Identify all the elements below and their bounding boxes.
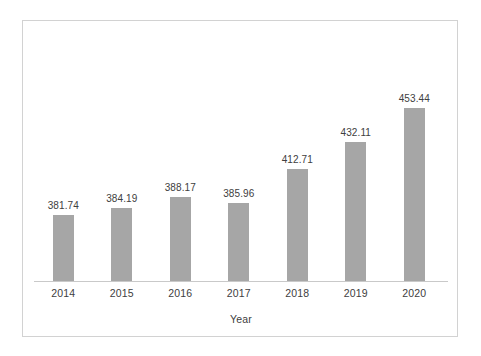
- bar-group: 388.17: [151, 30, 210, 281]
- chart-frame: 381.74 384.19 388.17 385.96 412.71 432.1: [22, 20, 458, 337]
- bar-value-label: 432.11: [341, 127, 371, 138]
- bar-2014[interactable]: [53, 215, 74, 281]
- x-tick-2015: 2015: [93, 287, 152, 299]
- chart-figure: 381.74 384.19 388.17 385.96 412.71 432.1: [0, 0, 481, 356]
- bar-value-label: 384.19: [106, 193, 137, 204]
- x-tick-2019: 2019: [327, 287, 386, 299]
- x-tick-2020: 2020: [385, 287, 444, 299]
- bar-2016[interactable]: [170, 197, 191, 281]
- bar-group: 412.71: [268, 30, 327, 281]
- x-axis-line: [34, 281, 448, 282]
- bar-value-label: 412.71: [282, 154, 313, 165]
- bar-value-label: 453.44: [399, 93, 430, 104]
- bar-value-label: 385.96: [223, 188, 254, 199]
- x-tick-2018: 2018: [268, 287, 327, 299]
- bar-value-label: 388.17: [165, 182, 196, 193]
- plot-area: 381.74 384.19 388.17 385.96 412.71 432.1: [34, 31, 448, 282]
- bar-2015[interactable]: [111, 208, 132, 281]
- bar-2019[interactable]: [345, 142, 366, 281]
- bar-value-label: 381.74: [48, 200, 79, 211]
- bar-2018[interactable]: [287, 169, 308, 281]
- bar-2020[interactable]: [404, 108, 425, 281]
- x-axis-title: Year: [34, 313, 448, 325]
- x-tick-2016: 2016: [151, 287, 210, 299]
- bar-group: 384.19: [93, 30, 152, 281]
- bar-group: 432.11: [327, 30, 386, 281]
- bar-2017[interactable]: [228, 203, 249, 281]
- bar-group: 381.74: [34, 30, 93, 281]
- bar-group: 385.96: [210, 30, 269, 281]
- x-tick-2014: 2014: [34, 287, 93, 299]
- x-tick-2017: 2017: [210, 287, 269, 299]
- bar-group: 453.44: [385, 30, 444, 281]
- x-axis-tick-labels: 2014 2015 2016 2017 2018 2019 2020: [34, 287, 448, 303]
